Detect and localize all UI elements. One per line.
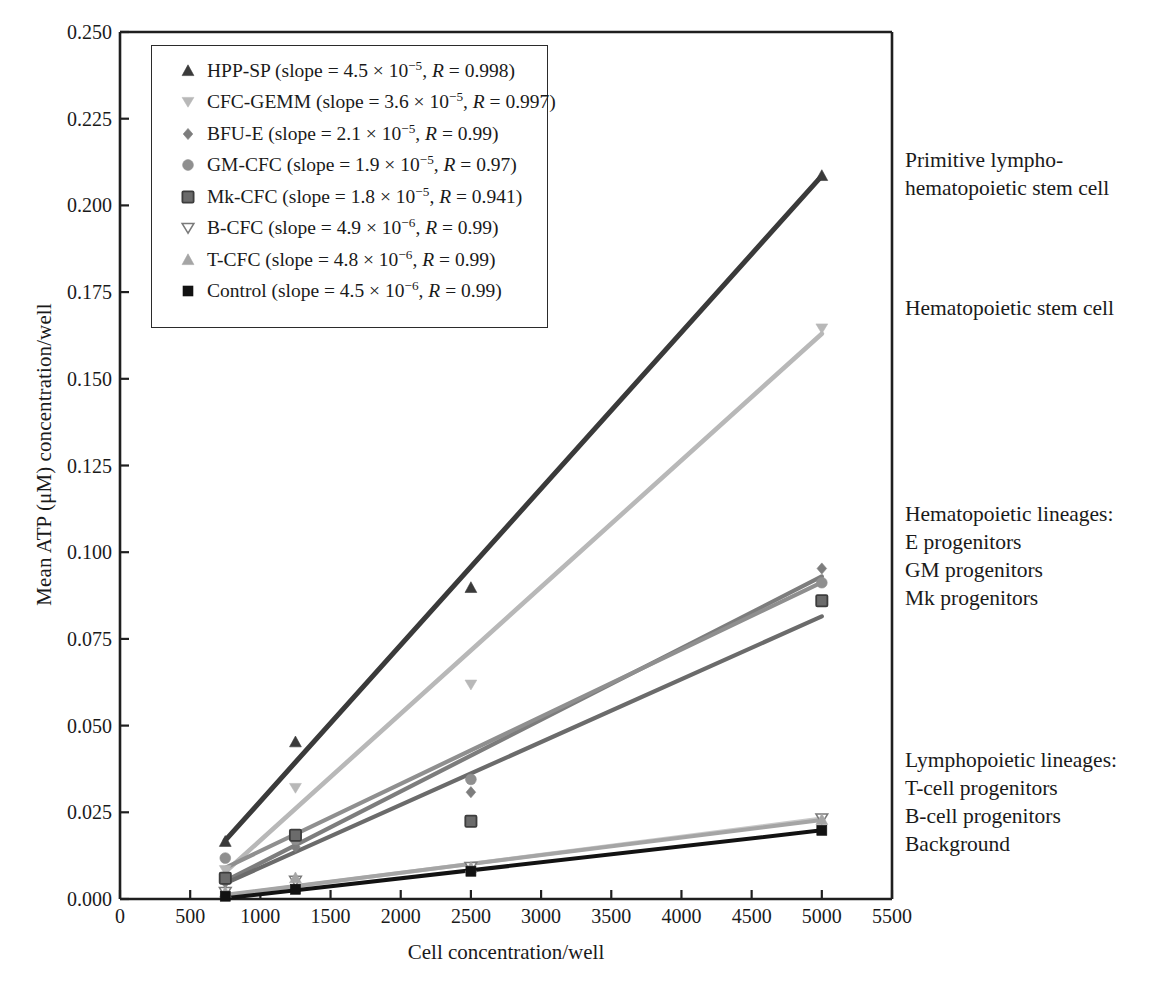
data-point [466,866,476,876]
data-point [465,582,477,593]
legend-marker-square-black-icon [177,282,199,300]
legend-item-cfc-gemm[interactable]: CFC-GEMM (slope = 3.6 × 10−5, R = 0.997) [152,87,547,119]
x-axis-tick-label: 4500 [717,905,787,927]
legend-item-b-cfc[interactable]: B-CFC (slope = 4.9 × 10−6, R = 0.99) [152,213,547,245]
data-point [290,736,302,747]
x-axis-tick-label: 2000 [366,905,436,927]
legend-item-bfu-e[interactable]: BFU-E (slope = 2.1 × 10−5, R = 0.99) [152,118,547,150]
data-point [220,853,231,864]
data-point [466,774,477,785]
data-point [290,783,302,793]
x-axis-tick-label: 4000 [646,905,716,927]
legend-item-gm-cfc[interactable]: GM-CFC (slope = 1.9 × 10−5, R = 0.97) [152,150,547,182]
data-point [220,891,230,901]
legend-item-label: HPP-SP (slope = 4.5 × 10−5, R = 0.998) [207,60,515,82]
legend-marker-triangle-up-grey-icon [177,251,199,269]
legend-marker-square-grey-icon [177,188,199,206]
data-point [465,816,476,827]
annotation-label: Hematopoietic stem cell [905,294,1114,322]
legend-item-label: B-CFC (slope = 4.9 × 10−6, R = 0.99) [207,217,498,239]
legend-item-mk-cfc[interactable]: Mk-CFC (slope = 1.8 × 10−5, R = 0.941) [152,181,547,213]
trend-line-t-cfc [225,820,822,895]
data-point [466,787,476,798]
x-axis-tick-label: 5500 [857,905,927,927]
x-axis-title: Cell concentration/well [120,940,892,965]
legend-item-label: GM-CFC (slope = 1.9 × 10−5, R = 0.97) [207,154,517,176]
legend-marker-circle-icon [177,156,199,174]
data-point [817,563,827,574]
data-point [817,825,827,835]
data-point [816,324,828,334]
legend-marker-triangle-down-open-icon [177,219,199,237]
y-axis-tick-label: 0.025 [22,802,112,822]
x-axis-tick-label: 2500 [436,905,506,927]
legend-item-label: T-CFC (slope = 4.8 × 10−6, R = 0.99) [207,249,496,271]
legend-marker-triangle-down-icon [177,93,199,111]
x-axis-tick-label: 0 [85,905,155,927]
y-axis-tick-labels: 0.0000.0250.0500.0750.1000.1250.1500.175… [14,0,112,992]
y-axis-title: Mean ATP (μM) concentration/well [32,175,57,735]
legend-marker-triangle-up-icon [177,62,199,80]
annotation-label: Lymphopoietic lineages: T-cell progenito… [905,746,1117,858]
annotation-label: Primitive lympho- hematopoietic stem cel… [905,146,1109,202]
data-point [465,680,477,690]
trend-line-gm-cfc [225,582,822,867]
x-axis-tick-label: 3500 [576,905,646,927]
x-axis-tick-label: 500 [155,905,225,927]
chart-legend: HPP-SP (slope = 4.5 × 10−5, R = 0.998)CF… [151,45,548,328]
legend-item-label: Control (slope = 4.5 × 10−6, R = 0.99) [207,280,502,302]
x-axis-tick-label: 5000 [787,905,857,927]
data-point [220,873,231,884]
legend-item-control[interactable]: Control (slope = 4.5 × 10−6, R = 0.99) [152,276,547,308]
data-point [816,595,827,606]
trend-line-cfc-gemm [225,334,822,872]
legend-item-label: Mk-CFC (slope = 1.8 × 10−5, R = 0.941) [207,186,522,208]
legend-item-label: CFC-GEMM (slope = 3.6 × 10−5, R = 0.997) [207,91,556,113]
chart-figure: 0.0000.0250.0500.0750.1000.1250.1500.175… [0,0,1158,992]
data-point [816,577,827,588]
x-axis-tick-label: 1000 [225,905,295,927]
trend-line-mk-cfc [225,616,822,883]
y-axis-tick-label: 0.250 [22,22,112,42]
y-axis-tick-label: 0.225 [22,109,112,129]
legend-item-t-cfc[interactable]: T-CFC (slope = 4.8 × 10−6, R = 0.99) [152,244,547,276]
data-point [290,830,301,841]
trend-line-control [225,830,822,898]
legend-item-hpp-sp[interactable]: HPP-SP (slope = 4.5 × 10−5, R = 0.998) [152,55,547,87]
legend-item-label: BFU-E (slope = 2.1 × 10−5, R = 0.99) [207,123,498,145]
trend-line-bfu-e [225,576,822,880]
data-point [816,170,828,181]
legend-marker-diamond-icon [177,125,199,143]
x-axis-tick-label: 1500 [296,905,366,927]
annotation-label: Hematopoietic lineages: E progenitors GM… [905,500,1113,612]
x-axis-tick-label: 3000 [506,905,576,927]
data-point [290,884,300,894]
